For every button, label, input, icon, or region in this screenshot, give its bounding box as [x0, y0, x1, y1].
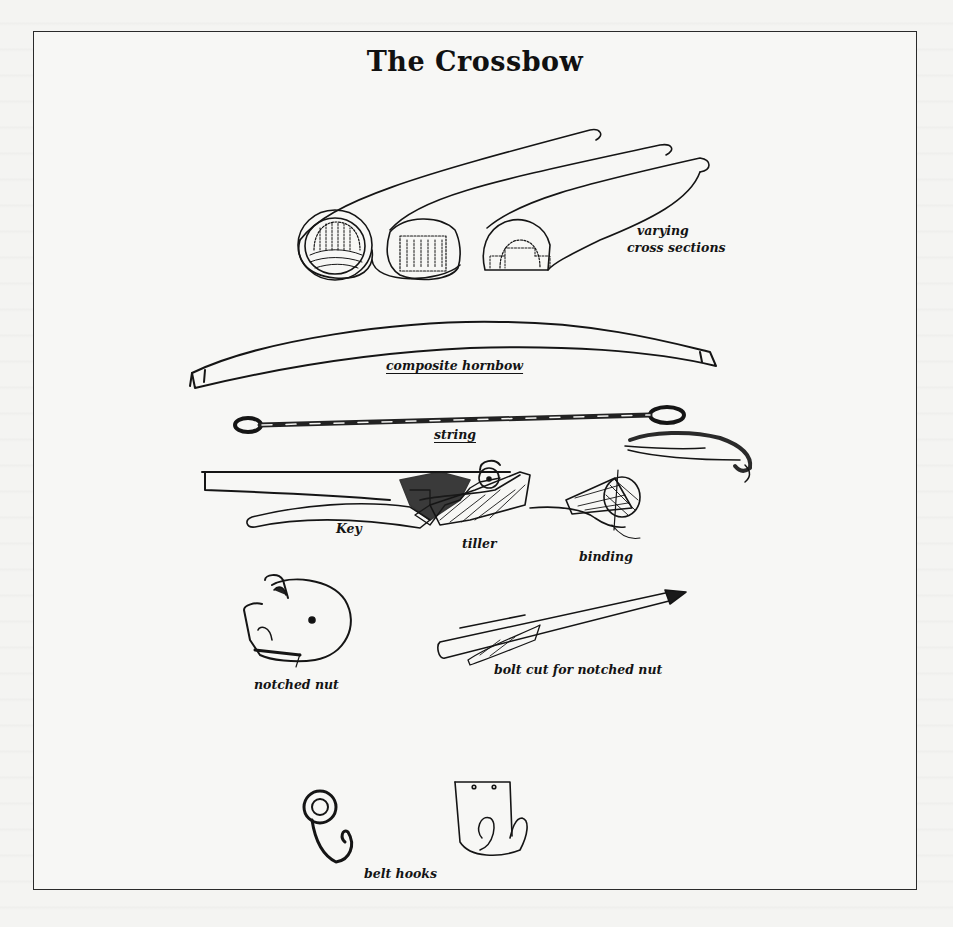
- label-key: Key: [336, 521, 362, 536]
- label-tiller: tiller: [462, 536, 497, 551]
- bolt-drawing: [438, 590, 686, 665]
- label-notched-nut: notched nut: [254, 677, 339, 692]
- label-binding: binding: [579, 549, 633, 564]
- binding-cone-drawing: [566, 470, 640, 538]
- label-belt-hooks: belt hooks: [364, 866, 437, 881]
- notched-nut-drawing: [244, 575, 351, 667]
- crossbow-illustration: [0, 0, 953, 927]
- belt-hooks-drawing: [304, 782, 527, 862]
- binding-knot-drawing: [625, 433, 750, 482]
- tiller-drawing: [202, 461, 625, 528]
- cross-section-limbs-drawing: [298, 130, 709, 280]
- composite-hornbow-drawing: [190, 322, 716, 388]
- label-cross-sections: cross sections: [627, 240, 726, 255]
- label-string: string: [434, 427, 476, 442]
- label-composite-hornbow: composite hornbow: [386, 358, 523, 373]
- label-varying: varying: [637, 223, 689, 238]
- label-bolt-cut: bolt cut for notched nut: [494, 662, 662, 677]
